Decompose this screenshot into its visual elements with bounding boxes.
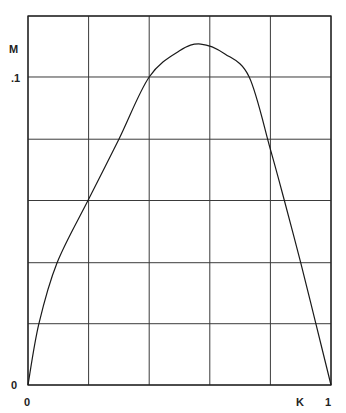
chart: M .1 0 0 K 1 bbox=[0, 0, 346, 413]
x-axis-label: K bbox=[296, 396, 304, 408]
x-tick-label-0: 0 bbox=[24, 396, 30, 408]
grid-layer bbox=[28, 16, 331, 385]
y-tick-label-0: 0 bbox=[11, 379, 17, 391]
x-tick-label-1: 1 bbox=[325, 396, 331, 408]
series-line-m-of-k bbox=[28, 44, 331, 385]
y-tick-label-0.1: .1 bbox=[11, 72, 20, 84]
y-axis-label: M bbox=[9, 43, 18, 55]
